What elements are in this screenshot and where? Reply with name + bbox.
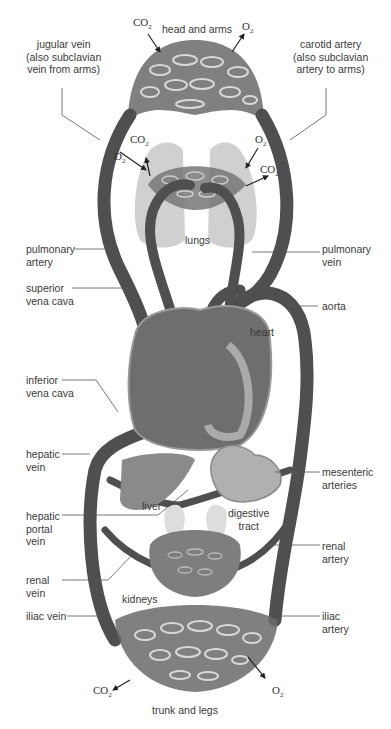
o2-legs: O2	[272, 684, 283, 699]
label-iliac-artery: iliac artery	[322, 610, 349, 635]
label-superior-vena-cava: superior vena cava	[26, 282, 74, 307]
co2-head: CO2	[133, 16, 152, 31]
label-renal-vein: renal vein	[26, 574, 49, 599]
co2-lungs-right: CO2	[260, 163, 279, 178]
label-heart: heart	[250, 326, 274, 339]
label-hepatic-portal-vein: hepatic portal vein	[26, 510, 60, 548]
label-inferior-vena-cava: inferior vena cava	[26, 374, 74, 399]
label-liver: liver	[142, 500, 161, 513]
label-mesenteric-arteries: mesenteric arteries	[322, 466, 373, 491]
label-iliac-vein: iliac vein	[26, 610, 66, 623]
label-digestive-tract: digestive tract	[228, 507, 269, 532]
label-lungs: lungs	[185, 234, 210, 247]
label-hepatic-vein: hepatic vein	[26, 448, 60, 473]
label-renal-artery: renal artery	[322, 540, 349, 565]
o2-head: O2	[242, 20, 253, 35]
label-head-and-arms: head and arms	[162, 23, 232, 36]
o2-lungs-left: O2	[114, 150, 125, 165]
co2-lungs-left: CO2	[130, 133, 149, 148]
label-kidneys: kidneys	[122, 593, 158, 606]
label-carotid-artery: carotid artery (also subclavian artery t…	[293, 38, 368, 76]
label-pulmonary-artery: pulmonary artery	[26, 243, 75, 268]
head-capillary-bed	[128, 40, 264, 120]
label-jugular-vein: jugular vein (also subclavian vein from …	[26, 38, 101, 76]
co2-legs: CO2	[93, 684, 112, 699]
label-pulmonary-vein: pulmonary vein	[322, 243, 371, 268]
label-aorta: aorta	[322, 300, 346, 313]
label-trunk-and-legs: trunk and legs	[152, 704, 218, 717]
digestive-tract	[211, 446, 281, 502]
legs-capillary-bed	[115, 605, 278, 692]
o2-lungs-right: O2	[255, 133, 266, 148]
